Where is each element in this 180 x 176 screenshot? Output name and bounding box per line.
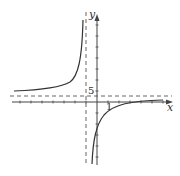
y-axis-arrow-icon <box>95 14 100 21</box>
asymptote-value-label: 5 <box>88 85 94 96</box>
x-axis-label: x <box>167 101 174 114</box>
x-tick-label-1: 1 <box>106 101 112 112</box>
y-axis-label: y <box>88 8 96 21</box>
left-branch-curve <box>14 20 83 91</box>
right-branch-curve <box>92 100 163 164</box>
function-graph: y x 5 1 <box>0 0 180 176</box>
